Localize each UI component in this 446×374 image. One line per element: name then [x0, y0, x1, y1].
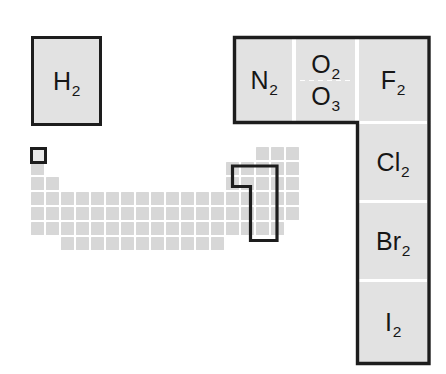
- ghost-cell: [286, 177, 299, 190]
- ghost-cell: [271, 177, 284, 190]
- ghost-cell: [46, 177, 59, 190]
- ghost-cell: [91, 237, 104, 250]
- ghost-cell: [211, 222, 224, 235]
- ghost-cell: [256, 162, 269, 175]
- oxygen-allotrope-stack: O2 O3: [296, 39, 355, 121]
- cell-bromine-label-subscript: 2: [402, 242, 411, 259]
- ghost-cell: [151, 237, 164, 250]
- ghost-cell: [241, 222, 254, 235]
- cell-iodine-label: I2: [385, 310, 401, 335]
- periodic-table-diagram: H2 N2 O2 O3 F2 Cl2 Br2 I2: [0, 0, 446, 374]
- ghost-cell: [121, 207, 134, 220]
- cell-nitrogen-label: N2: [250, 68, 277, 93]
- cell-oxygen-o2-label: O2: [311, 52, 339, 77]
- ghost-cell: [76, 207, 89, 220]
- ghost-cell: [226, 177, 239, 190]
- ghost-cell: [46, 222, 59, 235]
- ghost-cell: [286, 162, 299, 175]
- ghost-cell: [136, 192, 149, 205]
- ghost-cell: [166, 192, 179, 205]
- ghost-cell: [271, 207, 284, 220]
- ghost-cell: [271, 147, 284, 160]
- ghost-cell: [76, 222, 89, 235]
- ghost-cell: [256, 207, 269, 220]
- ghost-cell: [196, 237, 209, 250]
- ghost-cell: [271, 162, 284, 175]
- ghost-cell: [271, 222, 284, 235]
- ghost-cell: [181, 222, 194, 235]
- ghost-cell: [31, 222, 44, 235]
- ghost-cell: [136, 207, 149, 220]
- cell-iodine-label-subscript: 2: [393, 323, 402, 340]
- ghost-cell: [196, 222, 209, 235]
- cell-hydrogen-label-subscript: 2: [72, 82, 81, 99]
- ghost-cell: [256, 192, 269, 205]
- oxygen-allotrope-divider: [300, 80, 351, 81]
- cell-hydrogen-label: H2: [53, 69, 80, 94]
- cell-oxygen-o3-label-subscript: 3: [331, 97, 340, 114]
- ghost-cell: [241, 177, 254, 190]
- ghost-cell: [196, 207, 209, 220]
- ghost-cell: [286, 207, 299, 220]
- ghost-cell: [211, 192, 224, 205]
- ghost-cell: [121, 237, 134, 250]
- ghost-cell: [226, 207, 239, 220]
- ghost-cell: [241, 207, 254, 220]
- ghost-cell: [181, 207, 194, 220]
- ghost-cell: [61, 222, 74, 235]
- ghost-cell: [286, 147, 299, 160]
- ghost-cell: [46, 207, 59, 220]
- ghost-cell: [181, 192, 194, 205]
- ghost-cell: [166, 222, 179, 235]
- cell-oxygen-o3-label: O3: [311, 84, 339, 109]
- ghost-cell: [76, 237, 89, 250]
- cell-chlorine-label-subscript: 2: [401, 163, 410, 180]
- ghost-cell: [61, 192, 74, 205]
- ghost-cell: [211, 207, 224, 220]
- ghost-cell: [91, 222, 104, 235]
- ghost-cell: [91, 192, 104, 205]
- cell-hydrogen: H2: [31, 36, 102, 126]
- ghost-cell: [151, 207, 164, 220]
- cell-bromine: Br2: [359, 203, 427, 279]
- cell-chlorine: Cl2: [359, 124, 427, 200]
- ghost-cell: [211, 237, 224, 250]
- ghost-cell: [151, 192, 164, 205]
- ghost-cell: [286, 192, 299, 205]
- ghost-cell: [46, 192, 59, 205]
- cell-nitrogen-label-subscript: 2: [269, 81, 278, 98]
- cell-iodine: I2: [359, 282, 427, 362]
- ghost-cell: [31, 207, 44, 220]
- cell-oxygen: O2 O3: [296, 39, 355, 121]
- ghost-cell: [31, 177, 44, 190]
- cell-fluorine-label-subscript: 2: [397, 81, 406, 98]
- ghost-cell: [226, 222, 239, 235]
- ghost-cell: [106, 237, 119, 250]
- cell-fluorine: F2: [359, 39, 427, 121]
- ghost-cell: [166, 237, 179, 250]
- ghost-cell: [271, 192, 284, 205]
- ghost-cell: [76, 192, 89, 205]
- ghost-cell: [241, 192, 254, 205]
- ghost-cell: [106, 222, 119, 235]
- cell-nitrogen: N2: [236, 39, 292, 121]
- cell-oxygen-o2-label-subscript: 2: [331, 65, 340, 82]
- ghost-cell: [256, 177, 269, 190]
- small-outlined-cell: [30, 147, 47, 164]
- cell-fluorine-label: F2: [381, 68, 405, 93]
- ghost-cell: [226, 192, 239, 205]
- ghost-cell: [256, 222, 269, 235]
- ghost-cell: [121, 222, 134, 235]
- cell-chlorine-label: Cl2: [377, 150, 410, 175]
- cell-bromine-label: Br2: [376, 229, 410, 254]
- ghost-cell: [151, 222, 164, 235]
- ghost-cell: [226, 162, 239, 175]
- ghost-cell: [136, 237, 149, 250]
- ghost-cell: [166, 207, 179, 220]
- ghost-cell: [61, 207, 74, 220]
- ghost-cell: [91, 207, 104, 220]
- ghost-cell: [136, 222, 149, 235]
- ghost-cell: [241, 162, 254, 175]
- ghost-cell: [196, 192, 209, 205]
- ghost-cell: [61, 237, 74, 250]
